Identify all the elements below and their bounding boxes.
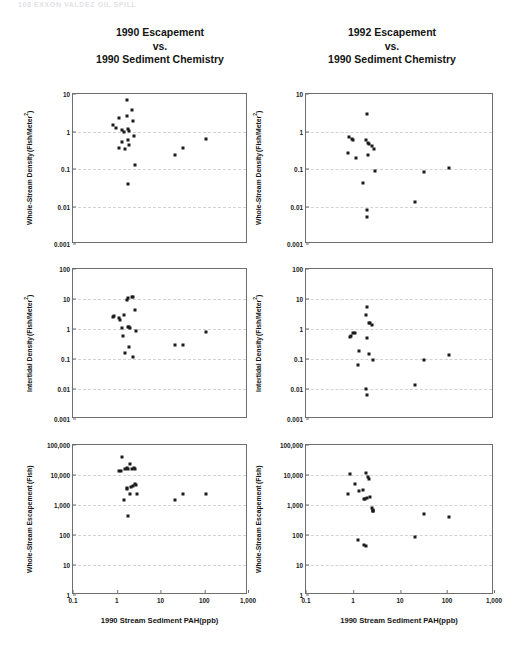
plot-intertidal-density-1992: 0.0010.010.1110100Intertidal Density(Fis… [305,268,493,418]
y-axis-tick-label: 0.01 [58,203,73,210]
data-point [364,313,367,316]
y-tick-mark [73,269,76,270]
data-point [354,156,357,159]
gridline [73,505,246,506]
y-axis-label-line2: (Fish/Meter2) [26,294,35,335]
data-point [130,109,133,112]
data-point [119,319,122,322]
data-point [354,482,357,485]
y-axis-tick-label: 1 [66,326,73,333]
column-title-line: 1990 Sediment Chemistry [292,53,492,67]
x-axis-tick-label: 0.1 [69,593,78,604]
data-point [366,394,369,397]
data-point [135,492,138,495]
y-tick-mark [73,535,76,536]
data-point [120,141,123,144]
y-axis-label-line2: (Fish/Meter2) [255,294,264,335]
data-point [205,330,208,333]
y-axis-label-line1: Intertidal Density [26,337,35,392]
y-tick-mark [73,475,76,476]
data-point [346,152,349,155]
data-point [181,343,184,346]
y-tick-mark [306,244,309,245]
data-point [369,495,372,498]
data-point [348,472,351,475]
data-point [126,98,129,101]
data-point [372,147,375,150]
data-point [374,170,377,173]
y-axis-label: Whole-Stream Density(Fish/Meter2) [26,93,35,243]
gridline [73,359,246,360]
gridline [73,535,246,536]
data-point [173,498,176,501]
x-tick-mark [117,590,118,593]
data-point [119,469,122,472]
data-point [349,335,352,338]
column-title-right: 1992 Escapementvs.1990 Sediment Chemistr… [292,26,492,67]
x-tick-mark [306,590,307,593]
y-axis-label: Intertidal Density(Fish/Meter2) [26,268,35,418]
y-axis-tick-label: 0.1 [61,166,73,173]
data-point [365,336,368,339]
data-point [122,334,125,337]
data-point [205,138,208,141]
data-point [134,483,137,486]
x-tick-mark [160,590,161,593]
y-axis-label-line1: Intertidal Density [255,337,264,392]
gridline [73,169,246,170]
gridline [73,207,246,208]
data-point [447,166,450,169]
data-point [365,387,368,390]
plot-frame: 0.0010.010.1110100 [72,268,247,418]
plot-intertidal-density-1990: 0.0010.010.1110100Intertidal Density(Fis… [72,268,247,418]
gridline [306,475,492,476]
y-axis-label: Intertidal Density(Fish/Meter2) [255,268,264,418]
y-axis-tick-label: 0.001 [287,241,306,248]
x-axis-tick-label: 100 [442,593,453,604]
y-tick-mark [73,565,76,566]
y-axis-tick-label: 10 [63,296,73,303]
y-tick-mark [73,419,76,420]
x-axis-tick-label: 1 [351,593,355,604]
data-point [122,314,125,317]
y-tick-mark [73,389,76,390]
gridline [306,535,492,536]
figure-page: 108 EXXON VALDEZ OIL SPILL 1990 Escapeme… [0,0,523,651]
data-point [131,120,134,123]
data-point [347,492,350,495]
data-point [133,309,136,312]
column-title-left: 1990 Escapementvs.1990 Sediment Chemistr… [60,26,260,67]
y-axis-tick-label: 1 [299,128,306,135]
y-tick-mark [306,389,309,390]
y-axis-tick-label: 10 [296,562,306,569]
x-axis-label-right: 1990 Stream Sediment PAH(ppb) [305,616,493,625]
y-tick-mark [73,299,76,300]
data-point [364,472,367,475]
data-point [118,146,121,149]
plot-frame: 1101001,00010,000100,0000.11101001,000 [305,444,493,594]
gridline [73,475,246,476]
y-axis-tick-label: 0.1 [294,166,306,173]
data-point [114,126,117,129]
y-axis-tick-label: 100,000 [280,442,306,449]
y-tick-mark [306,206,309,207]
data-point [371,510,374,513]
x-tick-mark [248,590,249,593]
data-point [361,488,364,491]
y-tick-mark [73,359,76,360]
gridline [73,389,246,390]
data-point [352,138,355,141]
data-point [365,215,368,218]
data-point [414,201,417,204]
y-axis-tick-label: 1 [299,326,306,333]
y-axis-tick-label: 10 [63,91,73,98]
gridline [306,207,492,208]
y-tick-mark [73,329,76,330]
y-tick-mark [73,505,76,506]
y-tick-mark [306,505,309,506]
y-tick-mark [306,445,309,446]
gridline [306,299,492,300]
y-axis-tick-label: 0.001 [54,241,73,248]
plot-whole-stream-escapement-1992: 1101001,00010,000100,0000.11101001,000Wh… [305,444,493,594]
y-axis-tick-label: 0.01 [58,386,73,393]
